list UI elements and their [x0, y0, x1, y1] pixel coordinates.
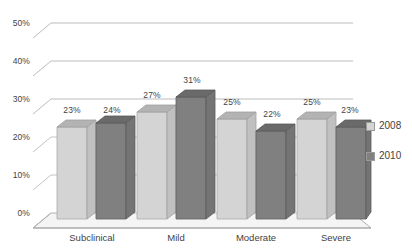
ytick-label-30: 30%: [0, 94, 30, 104]
category-label-severe: Severe: [286, 232, 386, 243]
bar-severe-2008: [297, 112, 336, 219]
data-label-mild-2008: 27%: [132, 90, 172, 100]
ytick-label-0: 0%: [0, 208, 30, 218]
bar-mild-2010: [176, 90, 215, 219]
data-label-moderate-2008: 25%: [212, 97, 252, 107]
bar-moderate-2010: [256, 124, 295, 219]
legend-label-2008: 2008: [379, 121, 401, 131]
data-label-subclinical-2010: 24%: [92, 105, 132, 115]
data-label-mild-2010: 31%: [172, 75, 212, 85]
legend-item-2010[interactable]: 2010: [366, 151, 401, 161]
ytick-label-20: 20%: [0, 132, 30, 142]
legend-item-2008[interactable]: 2008: [366, 121, 401, 131]
legend-swatch-2010-icon: [366, 152, 375, 161]
legend-label-2010: 2010: [379, 151, 401, 161]
legend-swatch-2008-icon: [366, 122, 375, 131]
ytick-label-40: 40%: [0, 56, 30, 66]
data-label-moderate-2010: 22%: [252, 109, 292, 119]
data-label-severe-2010: 23%: [330, 105, 370, 115]
data-label-subclinical-2008: 23%: [52, 105, 92, 115]
bar-subclinical-2008: [57, 120, 96, 219]
ytick-label-50: 50%: [0, 18, 30, 28]
ytick-label-10: 10%: [0, 170, 30, 180]
bar-moderate-2008: [217, 112, 256, 219]
bar-severe-2010: [336, 120, 371, 219]
data-label-severe-2008: 25%: [292, 97, 332, 107]
bar-mild-2008: [137, 105, 176, 219]
bar-chart: 50% 40% 30% 20% 10% 0% 23% 27% 25% 25% 2…: [0, 0, 412, 252]
bar-subclinical-2010: [96, 116, 135, 219]
chart-bars: [0, 0, 412, 252]
